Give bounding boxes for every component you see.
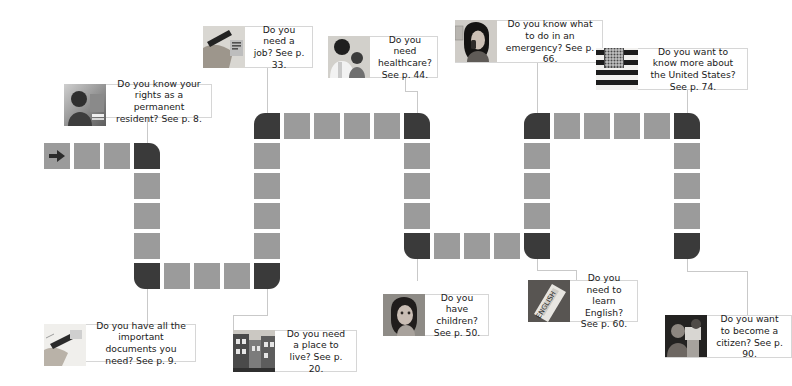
- board-square: [674, 173, 700, 199]
- board-square: [674, 203, 700, 229]
- connector-line-emergency: [537, 63, 538, 113]
- board-square: [134, 233, 160, 259]
- connector-line-housing-v: [267, 289, 268, 315]
- callout-emergency-text: Do you know what to do in an emergency? …: [497, 21, 602, 62]
- photo-man-portrait-icon: [64, 84, 106, 126]
- connector-line-job: [267, 68, 268, 113]
- photo-city-street-icon: [233, 330, 275, 372]
- right-arrow-icon: [44, 143, 70, 169]
- board-square: [134, 203, 160, 229]
- board-square: [614, 113, 640, 139]
- callout-children[interactable]: Do you have children? See p. 50.: [383, 294, 489, 336]
- board-square: [584, 113, 610, 139]
- board-square: [284, 113, 310, 139]
- callout-healthcare-text: Do you need healthcare? See p. 44.: [370, 37, 439, 77]
- board-square: [164, 263, 190, 289]
- board-square: [524, 173, 550, 199]
- board-square: [674, 143, 700, 169]
- photo-woman-phone-icon: [455, 20, 497, 62]
- board-start-square: [44, 143, 70, 169]
- callout-documents[interactable]: Do you have all the important documents …: [44, 324, 196, 362]
- board-square: [404, 173, 430, 199]
- callout-children-text: Do you have children? See p. 50.: [425, 295, 488, 335]
- board-square: [524, 113, 550, 139]
- board-square: [254, 173, 280, 199]
- photo-us-flag-icon: [596, 48, 638, 90]
- board-square: [644, 113, 670, 139]
- callout-emergency[interactable]: Do you know what to do in an emergency? …: [455, 20, 603, 63]
- board-square: [254, 113, 280, 139]
- callout-english[interactable]: ENGLISH Do you need to learn English? Se…: [528, 280, 638, 322]
- connector-line-us: [687, 90, 688, 113]
- photo-hand-writing-form-icon: [203, 26, 245, 68]
- callout-healthcare[interactable]: Do you need healthcare? See p. 44.: [328, 36, 438, 78]
- board-square: [74, 143, 100, 169]
- connector-line-housing-h: [233, 315, 268, 316]
- connector-line-citizen-v2: [747, 271, 748, 315]
- callout-job-text: Do you need a job? See p. 33.: [245, 27, 312, 67]
- connector-line-citizen-h: [687, 271, 747, 272]
- board-square: [134, 173, 160, 199]
- callout-citizen[interactable]: Do you want to become a citizen? See p. …: [665, 315, 792, 358]
- connector-line-healthcare-v2: [417, 91, 418, 113]
- callout-housing-text: Do you need a place to live? See p. 20.: [275, 331, 356, 371]
- callout-rights[interactable]: Do you know your rights as a permanent r…: [64, 84, 212, 118]
- callout-housing[interactable]: Do you need a place to live? See p. 20.: [233, 330, 357, 372]
- connector-line-citizen-v: [687, 259, 688, 271]
- callout-documents-text: Do you have all the important documents …: [86, 325, 195, 361]
- callout-citizen-text: Do you want to become a citizen? See p. …: [707, 316, 791, 357]
- board-square: [374, 113, 400, 139]
- board-square: [434, 233, 460, 259]
- board-square: [254, 203, 280, 229]
- board-square: [524, 233, 550, 259]
- connector-line-documents: [147, 289, 148, 324]
- connector-line-children-v: [417, 259, 418, 281]
- board-square: [404, 143, 430, 169]
- board-square: [674, 113, 700, 139]
- connector-line-housing-v2: [233, 315, 234, 330]
- board-square: [254, 263, 280, 289]
- board-square: [314, 113, 340, 139]
- board-square: [194, 263, 220, 289]
- photo-doctor-child-icon: [328, 36, 370, 78]
- board-square: [674, 233, 700, 259]
- board-square: [404, 203, 430, 229]
- callout-english-text: Do you need to learn English? See p. 60.: [570, 281, 637, 321]
- board-square: [134, 263, 160, 289]
- board-square: [134, 143, 160, 169]
- board-square: [494, 233, 520, 259]
- board-square: [404, 233, 430, 259]
- board-square: [404, 113, 430, 139]
- board-square: [344, 113, 370, 139]
- board-square: [254, 233, 280, 259]
- callout-united-states[interactable]: Do you want to know more about the Unite…: [596, 48, 748, 90]
- callout-job[interactable]: Do you need a job? See p. 33.: [203, 26, 313, 68]
- photo-english-book-icon: ENGLISH: [528, 280, 570, 322]
- board-square: [524, 203, 550, 229]
- connector-line-english-h: [537, 270, 576, 271]
- board-square: [524, 143, 550, 169]
- pathway-board: Do you know your rights as a permanent r…: [0, 0, 792, 386]
- board-square: [224, 263, 250, 289]
- callout-rights-text: Do you know your rights as a permanent r…: [106, 85, 211, 117]
- connector-line-english-v: [537, 259, 538, 270]
- board-square: [104, 143, 130, 169]
- photo-girl-child-icon: [383, 294, 425, 336]
- board-square: [554, 113, 580, 139]
- board-square: [464, 233, 490, 259]
- photo-citizenship-ceremony-icon: [665, 315, 707, 357]
- photo-hand-writing-icon: [44, 324, 86, 366]
- board-square: [254, 143, 280, 169]
- callout-united-states-text: Do you want to know more about the Unite…: [638, 49, 747, 89]
